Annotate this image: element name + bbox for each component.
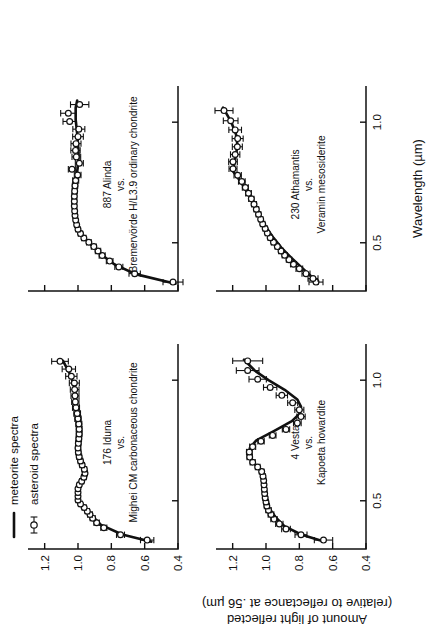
- data-point: [72, 387, 78, 393]
- data-point: [76, 160, 82, 166]
- data-point: [73, 178, 79, 184]
- meteorite-spectrum-line: [223, 108, 318, 284]
- figure-stage: 0.40.60.81.01.2176 Idunavs.Mighei CM car…: [0, 0, 432, 641]
- data-point: [296, 266, 302, 272]
- data-point: [232, 152, 238, 158]
- data-point: [250, 444, 256, 450]
- x-tick-label: 1.0: [371, 372, 383, 388]
- data-point: [144, 537, 150, 543]
- data-point: [232, 127, 238, 133]
- data-point: [242, 185, 248, 191]
- panel-caption-line: vs.: [303, 436, 314, 449]
- y-tick-label: 1.2: [39, 555, 51, 571]
- data-point: [66, 366, 72, 372]
- data-point: [57, 358, 63, 364]
- y-axis-title-line1: Amount of light reflected: [227, 612, 367, 627]
- panel-caption-line: vs.: [115, 436, 126, 449]
- data-point: [73, 154, 79, 160]
- data-point: [170, 279, 176, 285]
- panel-iduna: 0.40.60.81.01.2176 Idunavs.Mighei CM car…: [28, 344, 184, 571]
- data-point: [75, 172, 81, 178]
- data-point: [65, 110, 71, 116]
- data-point: [221, 108, 227, 114]
- data-point: [246, 190, 252, 196]
- x-tick-label: 1.0: [371, 114, 383, 130]
- y-tick-label: 0.4: [172, 554, 184, 571]
- panel-caption-line: 887 Alinda: [102, 160, 113, 208]
- data-point: [235, 136, 241, 142]
- data-point: [290, 400, 296, 406]
- y-tick-label: 0.6: [139, 555, 151, 571]
- panel-caption-line: Kapoeta howardite: [316, 400, 327, 485]
- panel-caption-line: vs.: [303, 178, 314, 191]
- y-tick-label: 1.0: [260, 555, 272, 571]
- data-point: [230, 159, 236, 165]
- y-tick-label: 0.8: [105, 555, 117, 571]
- data-point: [71, 380, 77, 386]
- data-point: [267, 385, 273, 391]
- data-point: [296, 407, 302, 413]
- data-point: [72, 393, 78, 399]
- data-point: [68, 373, 74, 379]
- data-point: [283, 526, 289, 532]
- data-point: [283, 426, 289, 432]
- panel-caption-line: 4 Vesta: [290, 425, 301, 459]
- data-point: [101, 525, 107, 531]
- meteorite-spectrum-line: [74, 100, 175, 283]
- panel-caption-line: 176 Iduna: [102, 419, 113, 465]
- data-point: [107, 258, 113, 264]
- meteorite-spectrum-line: [244, 360, 325, 542]
- data-point: [67, 119, 73, 125]
- data-point: [270, 433, 276, 439]
- panel-caption-line: 230 Athamantis: [290, 149, 301, 219]
- data-point: [298, 414, 304, 420]
- panel-athamantis: 0.51.0230 Athamantisvs.Veramin mesosider…: [215, 86, 383, 291]
- data-point: [74, 411, 80, 417]
- data-point: [235, 172, 241, 178]
- data-point: [116, 264, 122, 270]
- data-point: [239, 179, 245, 185]
- legend-asteroid-label: asteroid spectra: [28, 423, 40, 505]
- panel-caption-line: Veramin mesosiderite: [316, 135, 327, 233]
- data-point: [76, 126, 82, 132]
- asteroid-spectrum-points: [61, 101, 183, 285]
- figure-canvas: 0.40.60.81.01.2176 Idunavs.Mighei CM car…: [0, 0, 432, 641]
- data-point: [73, 147, 79, 153]
- panel-vesta: 0.51.00.40.60.81.01.24 Vestavs.Kapoeta h…: [216, 344, 383, 571]
- data-point: [255, 376, 261, 382]
- panel-caption-line: Bremervörde H/L3.9 ordinary chondrite: [128, 96, 139, 272]
- data-point: [77, 102, 83, 108]
- data-point: [86, 239, 92, 245]
- data-point: [230, 166, 236, 172]
- data-point: [321, 537, 327, 543]
- asteroid-spectrum-points: [215, 107, 323, 285]
- data-point: [245, 358, 251, 364]
- data-point: [91, 244, 97, 250]
- y-tick-label: 0.8: [293, 555, 305, 571]
- y-axis-title-line2: (relative to reflectance at .56 µm): [202, 596, 392, 611]
- x-axis-title: Wavelength (µm): [410, 139, 425, 238]
- data-point: [279, 392, 285, 398]
- data-point: [298, 532, 304, 538]
- data-point: [72, 399, 78, 405]
- panel-caption-line: vs.: [115, 178, 126, 191]
- y-tick-label: 0.6: [327, 555, 339, 571]
- x-tick-label: 0.5: [371, 235, 383, 251]
- legend-asteroid-marker-swatch: [31, 522, 37, 528]
- data-point: [234, 144, 240, 150]
- data-point: [303, 271, 309, 277]
- data-point: [73, 405, 79, 411]
- legend: meteorite spectraasteroid spectra: [8, 416, 40, 537]
- panel-alinda: 887 Alindavs.Bremervörde H/L3.9 ordinary…: [28, 86, 183, 291]
- legend-meteorite-label: meteorite spectra: [8, 416, 20, 505]
- data-point: [310, 276, 316, 282]
- data-point: [258, 438, 264, 444]
- y-tick-label: 1.2: [227, 555, 239, 571]
- y-tick-label: 1.0: [72, 555, 84, 571]
- y-tick-label: 0.4: [360, 554, 372, 571]
- panel-caption-line: Mighei CM carbonaceous chondrite: [128, 362, 139, 523]
- data-point: [75, 134, 81, 140]
- data-point: [118, 532, 124, 538]
- data-point: [228, 118, 234, 124]
- data-point: [245, 368, 251, 374]
